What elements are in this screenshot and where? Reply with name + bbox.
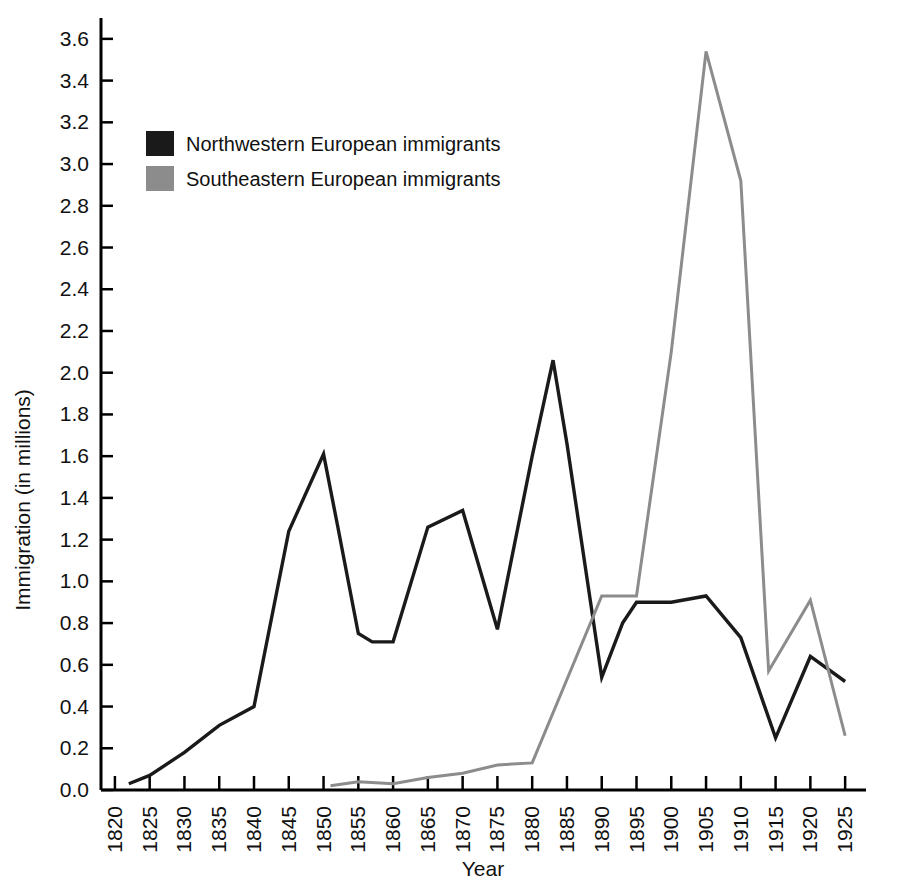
y-axis-ticks: 0.00.20.40.60.81.01.21.41.61.82.02.22.42… — [60, 27, 113, 801]
y-tick-label: 1.6 — [60, 444, 89, 467]
x-tick-label: 1885 — [555, 806, 578, 853]
x-tick-label: 1915 — [764, 806, 787, 853]
y-axis-title: Immigration (in millions) — [11, 389, 34, 611]
y-tick-label: 3.2 — [60, 110, 89, 133]
x-tick-label: 1835 — [207, 806, 230, 853]
x-tick-label: 1920 — [798, 806, 821, 853]
y-tick-label: 0.0 — [60, 778, 89, 801]
y-tick-label: 3.0 — [60, 152, 89, 175]
y-tick-label: 0.6 — [60, 653, 89, 676]
y-tick-label: 3.4 — [60, 69, 90, 92]
y-tick-label: 2.0 — [60, 361, 89, 384]
x-tick-label: 1925 — [833, 806, 856, 853]
x-tick-label: 1840 — [242, 806, 265, 853]
x-tick-label: 1855 — [346, 806, 369, 853]
y-tick-label: 1.8 — [60, 402, 89, 425]
series-line-southeastern — [331, 51, 846, 785]
x-axis-ticks: 1820182518301835184018451850185518601865… — [103, 776, 856, 853]
x-tick-label: 1905 — [694, 806, 717, 853]
legend-label-northwestern: Northwestern European immigrants — [186, 133, 501, 155]
series-line-northwestern — [129, 360, 845, 784]
y-tick-label: 1.4 — [60, 486, 90, 509]
x-tick-label: 1850 — [312, 806, 335, 853]
x-tick-label: 1865 — [416, 806, 439, 853]
x-tick-label: 1860 — [381, 806, 404, 853]
x-tick-label: 1870 — [451, 806, 474, 853]
x-tick-label: 1830 — [172, 806, 195, 853]
x-tick-label: 1825 — [138, 806, 161, 853]
immigration-line-chart: 0.00.20.40.60.81.01.21.41.61.82.02.22.42… — [0, 0, 904, 895]
data-series-group — [129, 51, 845, 785]
x-tick-label: 1895 — [625, 806, 648, 853]
y-tick-label: 0.8 — [60, 611, 89, 634]
y-tick-label: 1.0 — [60, 569, 89, 592]
legend-swatch-northwestern — [146, 131, 174, 156]
chart-legend: Northwestern European immigrants Southea… — [146, 131, 501, 191]
x-tick-label: 1875 — [485, 806, 508, 853]
y-tick-label: 2.2 — [60, 319, 89, 342]
x-tick-label: 1880 — [520, 806, 543, 853]
y-tick-label: 0.4 — [60, 695, 90, 718]
y-tick-label: 1.2 — [60, 528, 89, 551]
y-tick-label: 3.6 — [60, 27, 89, 50]
x-tick-label: 1820 — [103, 806, 126, 853]
chart-canvas: 0.00.20.40.60.81.01.21.41.61.82.02.22.42… — [0, 0, 904, 895]
x-tick-label: 1900 — [659, 806, 682, 853]
x-tick-label: 1845 — [277, 806, 300, 853]
x-axis-title: Year — [462, 857, 504, 880]
y-tick-label: 0.2 — [60, 736, 89, 759]
x-tick-label: 1910 — [729, 806, 752, 853]
legend-swatch-southeastern — [146, 166, 174, 191]
y-tick-label: 2.8 — [60, 194, 89, 217]
y-tick-label: 2.6 — [60, 236, 89, 259]
x-tick-label: 1890 — [590, 806, 613, 853]
y-tick-label: 2.4 — [60, 277, 90, 300]
legend-label-southeastern: Southeastern European immigrants — [186, 168, 501, 190]
